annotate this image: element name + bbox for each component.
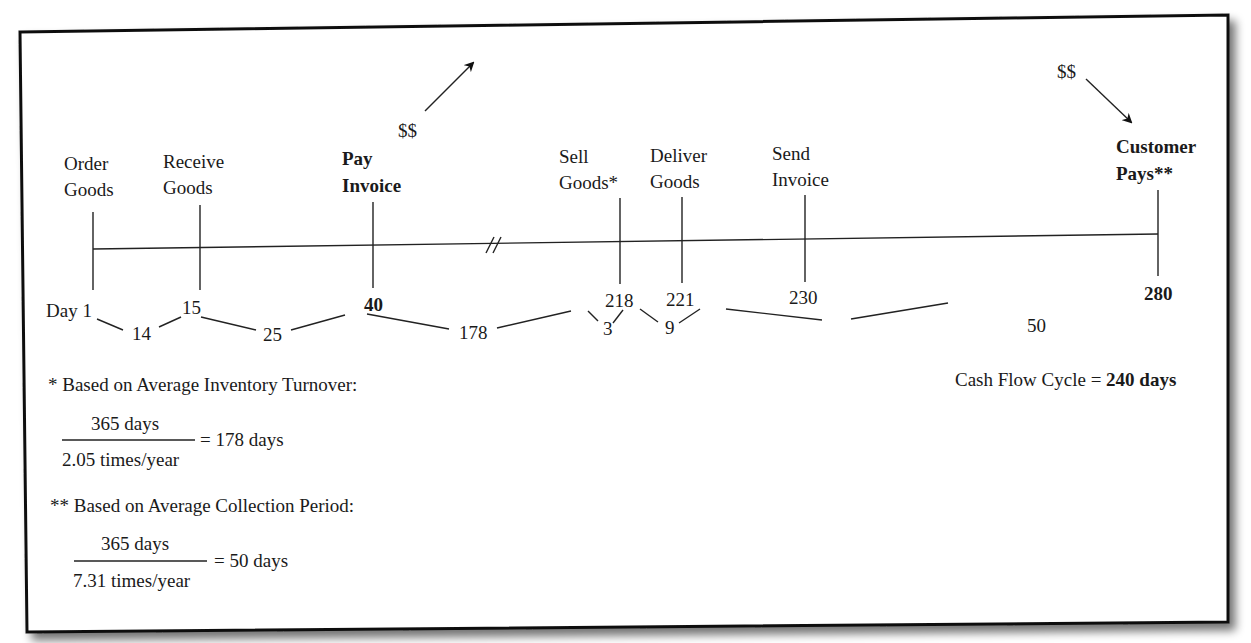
svg-text:Goods: Goods bbox=[650, 171, 700, 192]
diagram-frame bbox=[20, 15, 1228, 632]
svg-text:365 days: 365 days bbox=[101, 533, 169, 554]
svg-text:$$: $$ bbox=[1057, 61, 1076, 82]
svg-text:40: 40 bbox=[364, 294, 383, 315]
svg-text:365 days: 365 days bbox=[91, 413, 159, 434]
svg-text:$$: $$ bbox=[398, 120, 417, 141]
svg-text:Goods*: Goods* bbox=[559, 172, 618, 193]
svg-text:3: 3 bbox=[603, 318, 613, 339]
svg-text:= 178 days: = 178 days bbox=[200, 429, 284, 450]
svg-text:14: 14 bbox=[132, 323, 152, 344]
svg-text:280: 280 bbox=[1144, 283, 1173, 304]
svg-text:** Based on Average Collection: ** Based on Average Collection Period: bbox=[50, 495, 354, 516]
svg-text:Customer: Customer bbox=[1116, 136, 1197, 157]
svg-text:= 50 days: = 50 days bbox=[214, 550, 288, 571]
svg-text:Goods: Goods bbox=[163, 177, 213, 198]
svg-text:Invoice: Invoice bbox=[772, 169, 829, 190]
svg-text:Order: Order bbox=[64, 153, 109, 174]
svg-text:Invoice: Invoice bbox=[342, 175, 401, 196]
cash-flow-cycle-summary: Cash Flow Cycle = 240 days bbox=[955, 369, 1176, 390]
svg-text:Deliver: Deliver bbox=[650, 145, 708, 166]
svg-text:50: 50 bbox=[1027, 315, 1046, 336]
svg-text:Sell: Sell bbox=[559, 146, 589, 167]
svg-text:Receive: Receive bbox=[163, 151, 224, 172]
svg-text:25: 25 bbox=[263, 324, 282, 345]
svg-text:Day 1: Day 1 bbox=[46, 300, 92, 321]
svg-text:Pays**: Pays** bbox=[1116, 163, 1173, 184]
svg-text:230: 230 bbox=[789, 287, 818, 308]
svg-text:2.05 times/year: 2.05 times/year bbox=[62, 449, 180, 470]
svg-text:7.31 times/year: 7.31 times/year bbox=[73, 570, 191, 591]
svg-text:* Based on Average Inventory T: * Based on Average Inventory Turnover: bbox=[48, 374, 357, 395]
svg-text:178: 178 bbox=[459, 322, 488, 343]
svg-text:221: 221 bbox=[666, 289, 695, 310]
svg-text:218: 218 bbox=[605, 290, 634, 311]
svg-text:Pay: Pay bbox=[342, 148, 373, 169]
svg-text:9: 9 bbox=[665, 317, 675, 338]
cash-flow-cycle-diagram: Order Goods Receive Goods Pay Invoice Se… bbox=[0, 0, 1251, 643]
svg-text:15: 15 bbox=[182, 297, 201, 318]
svg-text:Goods: Goods bbox=[64, 179, 114, 200]
svg-text:Send: Send bbox=[772, 143, 811, 164]
